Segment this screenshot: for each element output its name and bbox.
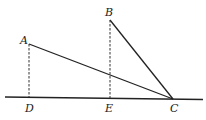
label-point-c: C [170, 102, 179, 115]
baseline [5, 97, 203, 100]
label-point-e: E [104, 102, 113, 115]
label-point-d: D [24, 102, 34, 115]
label-point-b: B [104, 6, 113, 19]
label-point-a: A [19, 34, 28, 47]
geometry-diagram: A B C D E [0, 0, 206, 120]
